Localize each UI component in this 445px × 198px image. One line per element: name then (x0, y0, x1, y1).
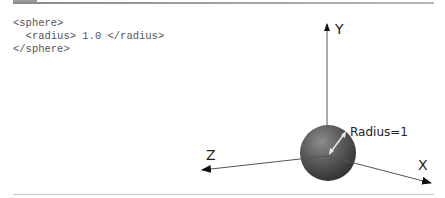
bottom-divider (13, 194, 434, 195)
y-axis-label: Y (334, 21, 344, 37)
z-axis-label: Z (206, 147, 216, 163)
x-axis-label: X (418, 157, 428, 173)
sphere-axes-diagram: Y Z X Radius=1 (0, 0, 445, 198)
sphere (300, 125, 356, 181)
radius-label: Radius=1 (350, 125, 408, 139)
